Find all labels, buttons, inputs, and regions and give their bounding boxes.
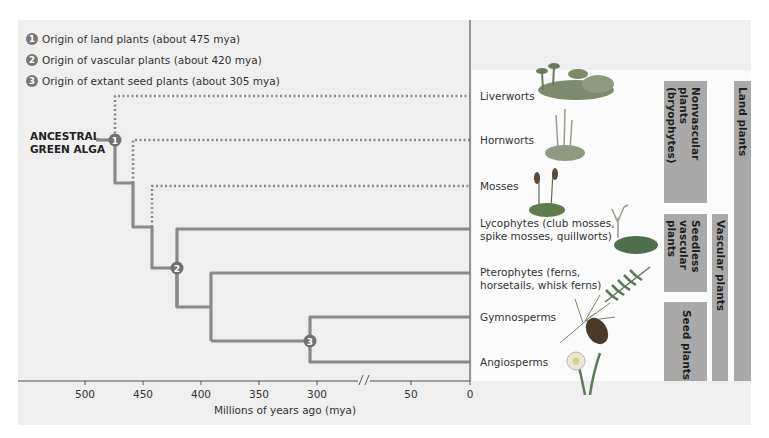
taxon-gymnosperms: Gymnosperms <box>480 311 556 324</box>
node-1-icon: 1 <box>109 134 122 147</box>
group-bar-nonvascular: Nonvascular plants (bryophytes) <box>664 81 707 203</box>
angiosperm-illustration-icon <box>560 345 610 400</box>
group-bar-seedless-vascular: Seedless vascular plants <box>664 214 707 292</box>
axis-tick-50: 50 <box>404 388 417 400</box>
branch-angiosperms <box>310 341 470 362</box>
branch-liverworts <box>115 96 470 138</box>
branch-gymnosperms <box>310 317 470 341</box>
group-label: Land plants <box>737 87 749 156</box>
node-3-icon: 3 <box>304 335 317 348</box>
branch-hornworts <box>133 140 470 183</box>
axis-tick-500: 500 <box>75 388 95 400</box>
branch-lycophytes <box>177 229 470 307</box>
group-bar-land-plants: Land plants <box>734 81 751 381</box>
axis-tick-350: 350 <box>249 388 269 400</box>
group-label: Seed plants <box>681 310 693 380</box>
taxon-liverworts: Liverworts <box>480 90 535 103</box>
taxon-mosses: Mosses <box>480 180 518 193</box>
hornwort-illustration-icon <box>540 105 590 165</box>
dotted-lineages <box>115 96 470 227</box>
branch-pterophytes <box>211 273 470 341</box>
branch-mosses <box>152 186 470 227</box>
group-label: Vascular plants <box>715 220 727 311</box>
axis-tick-0: 0 <box>467 388 474 400</box>
branch-vascular <box>177 268 211 307</box>
taxon-pterophytes: Pterophytes (ferns, horsetails, whisk fe… <box>480 266 601 292</box>
svg-text:2: 2 <box>174 264 180 274</box>
axis-tick-400: 400 <box>191 388 211 400</box>
axis-title: Millions of years ago (mya) <box>200 404 370 416</box>
group-label: Seedless vascular plants <box>666 220 702 273</box>
gymnosperm-illustration-icon <box>555 293 620 348</box>
liverwort-illustration-icon <box>528 60 618 105</box>
group-label: Nonvascular plants (bryophytes) <box>666 87 702 164</box>
axis-tick-300: 300 <box>307 388 327 400</box>
taxon-line: spike mosses, quillworts) <box>480 230 615 243</box>
lycophyte-illustration-icon <box>600 203 660 258</box>
svg-text:3: 3 <box>307 337 313 347</box>
taxon-line: Pterophytes (ferns, <box>480 266 601 279</box>
axis-tick-450: 450 <box>133 388 153 400</box>
taxon-line: horsetails, whisk ferns) <box>480 279 601 292</box>
taxon-hornworts: Hornworts <box>480 134 534 147</box>
taxon-line: Lycophytes (club mosses, <box>480 217 615 230</box>
node-2-icon: 2 <box>171 262 184 275</box>
group-bar-vascular: Vascular plants <box>712 214 728 381</box>
taxon-angiosperms: Angiosperms <box>480 356 548 369</box>
svg-text:1: 1 <box>112 136 118 146</box>
group-bar-seed-plants: Seed plants <box>664 302 707 381</box>
moss-illustration-icon <box>525 168 575 218</box>
axis-break-icon <box>358 374 370 385</box>
taxon-lycophytes: Lycophytes (club mosses, spike mosses, q… <box>480 217 615 243</box>
backbone <box>115 140 177 268</box>
